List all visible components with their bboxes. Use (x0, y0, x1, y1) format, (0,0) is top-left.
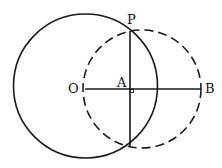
label-a: A (116, 75, 127, 90)
label-o: O (68, 81, 79, 96)
solid-circle (14, 14, 158, 158)
label-p: P (127, 12, 136, 27)
label-b: B (205, 81, 215, 96)
geometry-diagram: P O A B (0, 0, 222, 168)
